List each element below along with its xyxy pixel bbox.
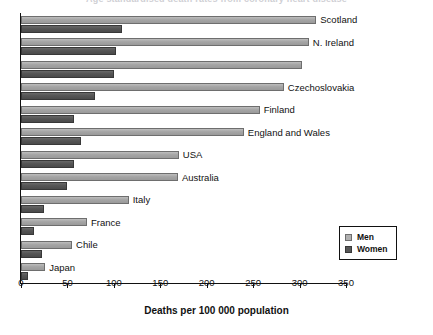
x-axis-title: Deaths per 100 000 population	[0, 305, 433, 316]
bar-chart: Age standardised death rates from corona…	[0, 0, 433, 335]
category-label: France	[91, 218, 121, 228]
x-tick-label-100: 100	[106, 277, 122, 288]
category-label: USA	[183, 150, 203, 160]
x-tick-label-150: 150	[152, 277, 168, 288]
category-label: N. Ireland	[313, 38, 354, 48]
bar-women	[21, 47, 116, 55]
bar-men	[21, 241, 72, 249]
bar-women	[21, 70, 114, 78]
x-tick-label-0: 0	[18, 277, 23, 288]
x-tick-label-50: 50	[62, 277, 73, 288]
bar-men	[21, 151, 179, 159]
bar-men	[21, 16, 316, 24]
legend-item-women: Women	[345, 243, 388, 255]
bar-women	[21, 92, 95, 100]
legend-item-men: Men	[345, 231, 388, 243]
bar-men	[21, 83, 284, 91]
x-tick-label-250: 250	[245, 277, 261, 288]
bar-women	[21, 137, 81, 145]
category-label: Scotland	[320, 15, 357, 25]
bar-men	[21, 218, 87, 226]
category-label: Japan	[49, 263, 75, 273]
bar-men	[21, 173, 178, 181]
category-label: Chile	[76, 240, 98, 250]
category-label: Czechoslovakia	[288, 83, 355, 93]
bar-women	[21, 227, 34, 235]
bar-women	[21, 182, 67, 190]
plot-area	[21, 13, 346, 283]
legend-label: Women	[357, 244, 388, 254]
bar-men	[21, 61, 302, 69]
bar-women	[21, 250, 42, 258]
category-label: Australia	[182, 173, 219, 183]
x-tick-label-300: 300	[292, 277, 308, 288]
bar-women	[21, 115, 74, 123]
bar-women	[21, 25, 122, 33]
legend-swatch-women-icon	[345, 246, 352, 253]
bar-men	[21, 196, 129, 204]
bar-men	[21, 263, 45, 271]
bar-men	[21, 38, 309, 46]
legend-label: Men	[357, 232, 374, 242]
legend-swatch-men-icon	[345, 234, 352, 241]
bar-men	[21, 128, 244, 136]
bar-men	[21, 106, 260, 114]
legend: MenWomen	[339, 226, 397, 260]
bar-women	[21, 160, 74, 168]
clipped-header-text: Age standardised death rates from corona…	[0, 0, 433, 4]
x-tick-label-350: 350	[338, 277, 354, 288]
category-label: England and Wales	[248, 128, 330, 138]
x-tick-label-200: 200	[199, 277, 215, 288]
bar-women	[21, 205, 44, 213]
category-label: Italy	[133, 195, 150, 205]
category-label: Finland	[264, 105, 295, 115]
